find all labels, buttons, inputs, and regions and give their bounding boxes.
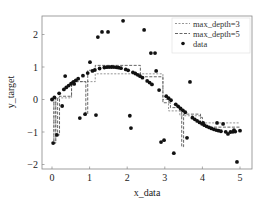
y-tick-label: −2	[27, 159, 38, 170]
data-point-outlier	[60, 104, 64, 108]
data-point-outlier	[63, 74, 67, 78]
data-point-outlier	[188, 80, 192, 84]
legend-marker-data-icon	[181, 42, 185, 46]
data-point-outlier	[55, 133, 59, 137]
data-point-outlier	[226, 132, 230, 136]
data-point	[98, 67, 102, 71]
x-tick-label: 5	[238, 172, 243, 183]
y-tick-label: 2	[33, 29, 38, 40]
data-point	[86, 71, 90, 75]
data-point-outlier	[94, 113, 98, 117]
x-axis-label: x_data	[134, 187, 161, 198]
y-axis-label: y_target	[5, 75, 16, 108]
data-point-outlier	[100, 30, 104, 34]
data-point-outlier	[51, 141, 55, 145]
data-point-outlier	[172, 151, 176, 155]
data-point-outlier	[121, 19, 125, 23]
data-point-outlier	[96, 35, 100, 39]
data-point	[150, 82, 154, 86]
data-point-outlier	[232, 128, 236, 132]
x-tick-label: 0	[50, 172, 55, 183]
data-point-outlier	[88, 60, 92, 64]
data-point-outlier	[106, 30, 110, 34]
data-point	[238, 129, 242, 133]
x-tick-label: 2	[125, 172, 130, 183]
data-point	[126, 68, 130, 72]
legend-label-data: data	[193, 39, 207, 49]
legend-label-depth5: max_depth=5	[193, 29, 240, 39]
data-point	[81, 74, 85, 78]
y-tick-label: 1	[33, 62, 38, 73]
x-tick-label: 4	[200, 172, 205, 183]
data-point-outlier	[128, 114, 132, 118]
data-point-outlier	[201, 121, 205, 125]
data-point	[119, 66, 123, 70]
data-point-outlier	[149, 51, 153, 55]
data-point-outlier	[162, 138, 166, 142]
data-point	[219, 129, 223, 133]
data-point	[157, 88, 161, 92]
data-point-outlier	[185, 136, 189, 140]
x-tick-label: 1	[87, 172, 92, 183]
data-point	[141, 76, 145, 80]
data-point-outlier	[142, 28, 146, 32]
legend: max_depth=3 max_depth=5 data	[172, 18, 250, 53]
data-point	[76, 77, 80, 81]
data-point-outlier	[153, 51, 157, 55]
data-point-outlier	[78, 116, 82, 120]
data-point	[52, 96, 56, 100]
chart: 012345 −2−1012 x_data y_target max_depth…	[0, 0, 261, 202]
data-point-outlier	[129, 126, 133, 130]
x-tick-label: 3	[162, 172, 167, 183]
data-point-outlier	[72, 82, 76, 86]
data-point	[183, 110, 187, 114]
data-point-outlier	[215, 121, 219, 125]
data-point	[57, 91, 61, 95]
data-point-outlier	[221, 122, 225, 126]
data-point-outlier	[83, 112, 87, 116]
y-tick-label: 0	[33, 94, 38, 105]
data-point-outlier	[154, 69, 158, 73]
data-point-outlier	[235, 160, 239, 164]
y-tick-label: −1	[27, 127, 38, 138]
data-point	[169, 98, 173, 102]
data-point	[93, 68, 97, 72]
legend-label-depth3: max_depth=3	[193, 19, 240, 29]
